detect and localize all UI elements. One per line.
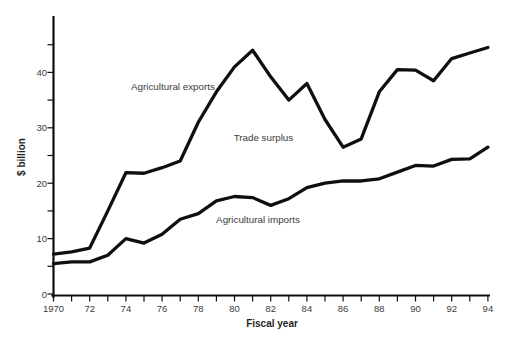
- x-tick-label: 88: [374, 303, 385, 314]
- trade-surplus-label: Trade surplus: [234, 132, 294, 143]
- x-tick-label: 72: [84, 303, 95, 314]
- x-tick-label: 76: [157, 303, 168, 314]
- y-axis-title: $ billion: [16, 138, 27, 176]
- line-chart: 0102030401970727476788082848688909294Agr…: [0, 0, 514, 345]
- y-tick-label: 10: [36, 233, 47, 244]
- y-tick-label: 20: [36, 178, 47, 189]
- x-tick-label: 92: [446, 303, 457, 314]
- axes: [52, 17, 489, 297]
- figure: 0102030401970727476788082848688909294Agr…: [0, 0, 514, 345]
- tick-marks: [48, 45, 488, 302]
- x-tick-label: 1970: [43, 303, 64, 314]
- agricultural-imports-line: [54, 147, 488, 263]
- x-tick-label: 84: [302, 303, 313, 314]
- y-tick-label: 40: [36, 67, 47, 78]
- x-tick-label: 86: [338, 303, 349, 314]
- x-tick-label: 90: [410, 303, 421, 314]
- agricultural-exports-label: Agricultural exports: [131, 81, 215, 92]
- x-tick-label: 94: [483, 303, 494, 314]
- y-tick-label: 30: [36, 122, 47, 133]
- y-tick-label: 0: [42, 289, 47, 300]
- x-tick-label: 80: [229, 303, 240, 314]
- x-tick-label: 82: [265, 303, 276, 314]
- tick-labels: 0102030401970727476788082848688909294: [36, 67, 493, 314]
- x-tick-label: 78: [193, 303, 204, 314]
- agricultural-imports-label: Agricultural imports: [216, 214, 300, 225]
- x-tick-label: 74: [121, 303, 132, 314]
- x-axis-title: Fiscal year: [246, 318, 298, 329]
